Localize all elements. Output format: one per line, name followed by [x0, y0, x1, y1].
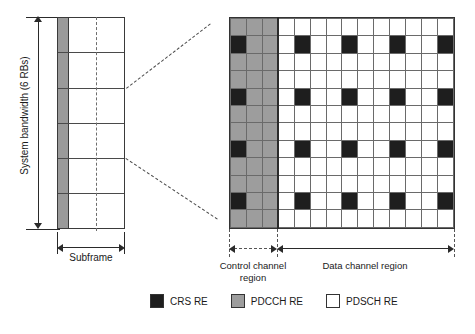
legend-swatch-pdsch	[326, 294, 340, 308]
cell-pdsch-re	[310, 88, 326, 105]
cell-pdsch-re	[342, 123, 358, 140]
cell-pdcch-re	[262, 158, 278, 175]
cell-crs-re	[390, 140, 406, 157]
subframe-arrow-line	[61, 247, 121, 248]
cell-pdsch-re	[278, 88, 294, 105]
cell-pdsch-re	[310, 71, 326, 88]
control-region-tick-right	[277, 229, 278, 257]
cell-pdsch-re	[437, 53, 453, 70]
cell-pdsch-re	[406, 140, 422, 157]
control-region-arrow-line	[234, 248, 272, 249]
cell-crs-re	[342, 88, 358, 105]
cell-pdsch-re	[326, 158, 342, 175]
cell-pdsch-re	[406, 88, 422, 105]
cell-crs-re	[342, 140, 358, 157]
cell-pdsch-re	[294, 175, 310, 192]
cell-pdsch-re	[278, 36, 294, 53]
lte-resource-grid-figure: System bandwidth (6 RBs) Subframe Contro…	[0, 0, 475, 334]
cell-pdsch-re	[422, 53, 438, 70]
cell-pdsch-re	[278, 175, 294, 192]
cell-pdcch-re	[262, 123, 278, 140]
cell-pdsch-re	[437, 19, 453, 36]
cell-pdsch-re	[374, 175, 390, 192]
cell-pdsch-re	[390, 106, 406, 123]
overview-rb-row	[58, 18, 124, 53]
cell-pdsch-re	[326, 88, 342, 105]
cell-pdcch-re	[231, 123, 247, 140]
cell-pdsch-re	[294, 158, 310, 175]
cell-pdsch-re	[374, 71, 390, 88]
control-channel-region-label: Control channel region	[213, 260, 293, 284]
cell-pdcch-re	[231, 19, 247, 36]
cell-crs-re	[231, 88, 247, 105]
cell-pdsch-re	[406, 210, 422, 228]
cell-pdsch-re	[278, 106, 294, 123]
bandwidth-arrowhead-down	[34, 223, 42, 229]
cell-pdsch-re	[342, 175, 358, 192]
cell-pdsch-re	[390, 19, 406, 36]
cell-pdsch-re	[374, 193, 390, 210]
subframe-arrowhead-right	[119, 244, 125, 252]
cell-pdcch-re	[246, 175, 262, 192]
cell-pdsch-re	[342, 71, 358, 88]
cell-pdsch-re	[390, 71, 406, 88]
resource-element-grid	[230, 18, 454, 228]
bandwidth-arrowhead-up	[34, 16, 42, 22]
resource-grid-row	[231, 210, 454, 228]
legend-swatch-pdcch	[231, 294, 245, 308]
resource-grid-row	[231, 19, 454, 36]
cell-pdcch-re	[231, 53, 247, 70]
cell-pdcch-re	[231, 158, 247, 175]
cell-pdcch-re	[262, 193, 278, 210]
cell-pdsch-re	[406, 175, 422, 192]
cell-pdsch-re	[422, 193, 438, 210]
cell-pdcch-re	[262, 106, 278, 123]
resource-grid-row	[231, 88, 454, 105]
cell-pdcch-re	[231, 175, 247, 192]
resource-grid-row	[231, 158, 454, 175]
cell-pdsch-re	[278, 158, 294, 175]
cell-pdsch-re	[326, 106, 342, 123]
cell-crs-re	[294, 36, 310, 53]
cell-pdsch-re	[422, 71, 438, 88]
cell-pdsch-re	[390, 53, 406, 70]
control-region-label-line1: Control channel	[213, 260, 293, 272]
cell-pdcch-re	[262, 210, 278, 228]
cell-crs-re	[437, 193, 453, 210]
cell-pdsch-re	[278, 193, 294, 210]
cell-pdsch-re	[374, 210, 390, 228]
resource-grid-row	[231, 175, 454, 192]
legend-swatch-crs	[150, 294, 164, 308]
cell-crs-re	[437, 36, 453, 53]
cell-pdsch-re	[310, 123, 326, 140]
bandwidth-arrow-line	[38, 20, 39, 226]
cell-pdsch-re	[278, 19, 294, 36]
cell-crs-re	[294, 140, 310, 157]
cell-pdsch-re	[437, 210, 453, 228]
cell-pdsch-re	[342, 106, 358, 123]
cell-pdsch-re	[437, 106, 453, 123]
cell-pdsch-re	[358, 106, 374, 123]
zoom-connector-lower	[125, 158, 217, 220]
cell-pdsch-re	[294, 19, 310, 36]
cell-pdsch-re	[326, 19, 342, 36]
cell-crs-re	[342, 36, 358, 53]
cell-pdcch-re	[246, 36, 262, 53]
control-region-label-line2: region	[213, 272, 293, 284]
cell-crs-re	[437, 140, 453, 157]
legend-item: PDSCH RE	[326, 294, 398, 308]
cell-pdsch-re	[358, 175, 374, 192]
cell-pdsch-re	[358, 88, 374, 105]
cell-pdcch-re	[246, 123, 262, 140]
cell-pdsch-re	[358, 140, 374, 157]
resource-grid-row	[231, 140, 454, 157]
cell-pdsch-re	[374, 88, 390, 105]
cell-pdsch-re	[342, 19, 358, 36]
data-region-tick-right	[454, 229, 455, 257]
cell-pdsch-re	[390, 175, 406, 192]
resource-grid-row	[231, 123, 454, 140]
control-data-region-divider	[277, 17, 279, 229]
cell-pdsch-re	[326, 193, 342, 210]
control-region-arrowhead-left	[229, 245, 235, 253]
cell-pdcch-re	[231, 210, 247, 228]
